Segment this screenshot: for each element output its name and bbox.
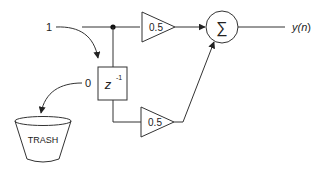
sigma-icon: ∑ xyxy=(216,19,227,37)
state-to-trash-arrow xyxy=(41,83,82,113)
delay-rect xyxy=(98,67,127,100)
output-label: y(n) xyxy=(291,21,311,33)
gain-bottom-to-sum-arrow xyxy=(174,42,214,122)
delay-label-base: z xyxy=(104,77,112,92)
input-label: 1 xyxy=(46,21,52,33)
gain-top: 0.5 xyxy=(142,12,175,42)
gain-top-label: 0.5 xyxy=(149,22,163,33)
summer: ∑ xyxy=(206,11,238,43)
state-label: 0 xyxy=(85,77,91,89)
gain-bottom-label: 0.5 xyxy=(148,117,162,128)
input-arrow xyxy=(56,27,98,58)
trash-rim xyxy=(15,117,71,126)
delay-label-exponent: -1 xyxy=(116,74,122,81)
gain-bottom: 0.5 xyxy=(141,107,174,137)
delay-block: z -1 xyxy=(98,67,127,100)
trash-bucket: TRASH xyxy=(15,117,71,163)
delay-to-gain-bottom-line xyxy=(113,100,141,122)
trash-label: TRASH xyxy=(28,135,59,145)
signal-flow-diagram: 1 0.5 ∑ y(n) z -1 0 TRASH 0.5 xyxy=(0,0,321,174)
